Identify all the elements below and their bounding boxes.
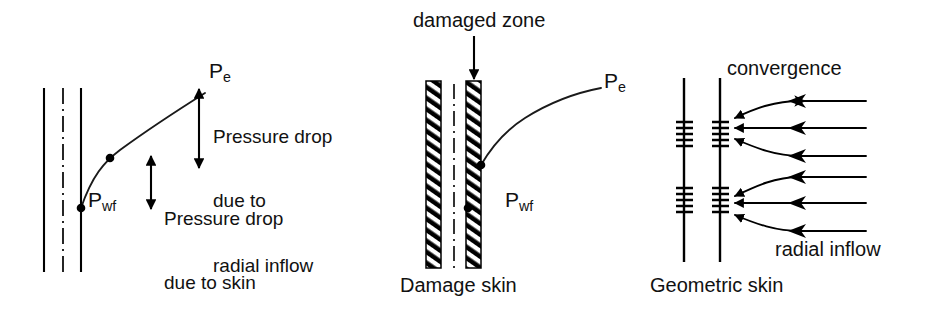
panel3-convergence-label: convergence xyxy=(727,58,842,79)
panel2-damaged-zone-bars xyxy=(426,81,481,268)
panel3-midline-arrowheads xyxy=(788,94,806,238)
skin-annotation-line-1: Pressure drop xyxy=(164,208,283,229)
panel2-caption: Damage skin xyxy=(400,275,517,296)
panel3-radial-inflow-label: radial inflow xyxy=(775,239,881,260)
panel3-caption: Geometric skin xyxy=(650,275,783,296)
panel1-skin-annotation: Pressure drop due to skin xyxy=(164,165,283,327)
panel2-damaged-zone-label: damaged zone xyxy=(413,10,545,31)
panel1-wellbore xyxy=(44,88,81,272)
panel2-pe-label: Pe xyxy=(604,70,626,92)
radial-annotation-line-1: Pressure drop xyxy=(213,126,332,147)
skin-annotation-line-2: due to skin xyxy=(164,272,283,293)
panel1-pe-label: Pe xyxy=(209,60,231,82)
panel3-flow-lines xyxy=(735,101,866,231)
panel1-pwf-label: Pwf xyxy=(88,189,116,211)
panel3-wellbore xyxy=(684,78,720,262)
panel2-pwf-label: Pwf xyxy=(505,189,533,211)
skin-effect-diagram: Pe Pwf Pressure drop due to radial inflo… xyxy=(0,0,944,327)
